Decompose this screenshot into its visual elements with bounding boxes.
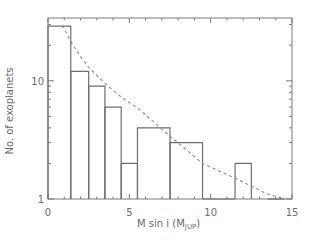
histogram-bin: [89, 86, 105, 199]
x-tick-label: 0: [45, 207, 51, 218]
histogram-bin: [170, 143, 203, 199]
histogram-bin: [105, 107, 121, 199]
histogram-bin: [71, 71, 89, 199]
fit-curve: [63, 25, 286, 199]
fit-curve-series: [63, 25, 286, 199]
histogram-chart: 051015110 M sin i (MJUP) No. of exoplane…: [0, 0, 313, 242]
x-tick-label: 10: [204, 207, 217, 218]
histogram-bin: [235, 163, 251, 199]
x-tick-label: 15: [286, 207, 299, 218]
histogram-bin: [137, 128, 170, 199]
y-axis-label: No. of exoplanets: [4, 67, 15, 154]
y-tick-label: 10: [31, 76, 44, 87]
x-axis-label: M sin i (MJUP): [137, 218, 200, 231]
histogram-bin: [121, 163, 137, 199]
x-tick-label: 5: [126, 207, 132, 218]
y-tick-label: 1: [38, 194, 44, 205]
histogram-bin: [48, 26, 71, 199]
histogram-series: [48, 26, 284, 199]
